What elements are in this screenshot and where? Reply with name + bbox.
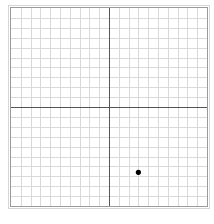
coordinate-grid-graph[interactable] xyxy=(10,7,208,207)
plotted-point[interactable] xyxy=(136,170,141,175)
grid-canvas[interactable] xyxy=(11,8,207,206)
